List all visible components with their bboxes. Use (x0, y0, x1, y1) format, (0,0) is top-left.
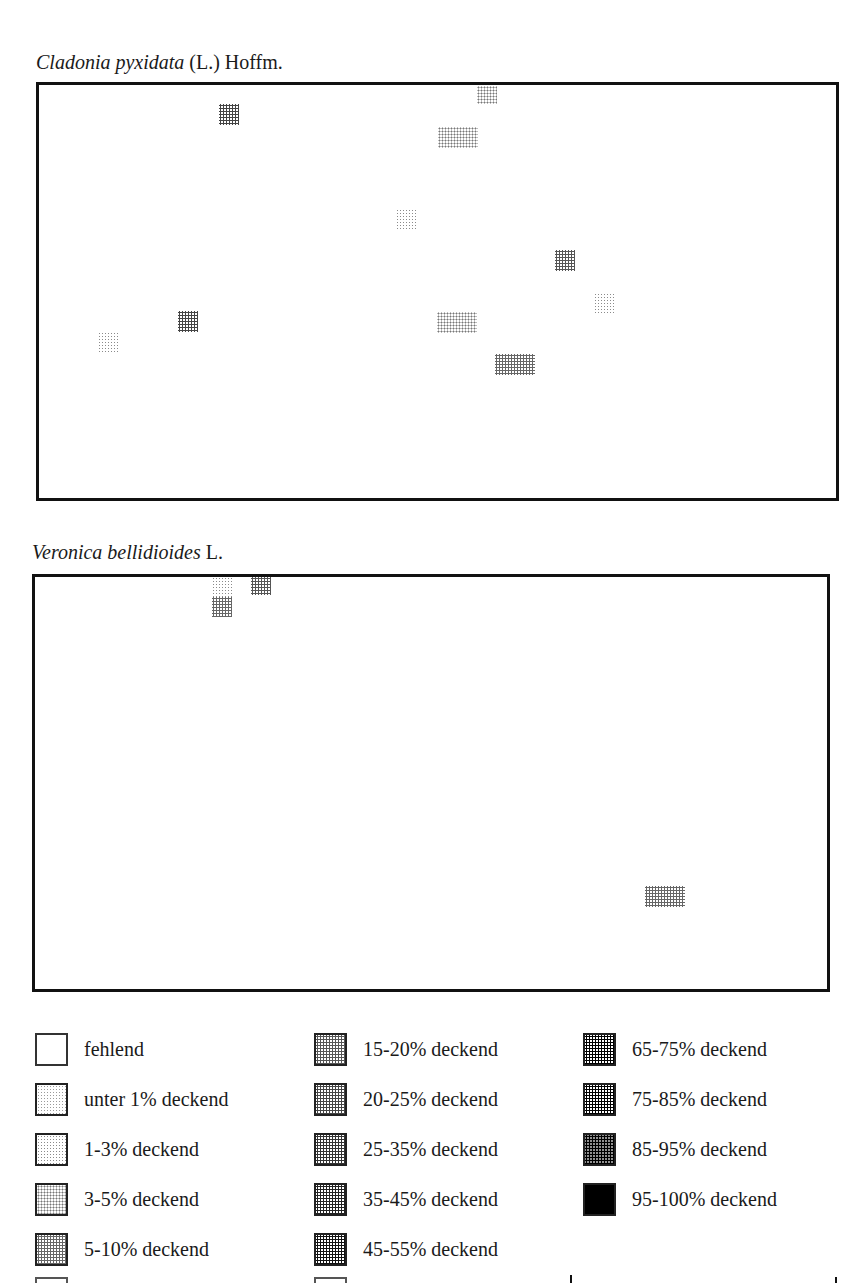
legend-label: 25-35% deckend (363, 1138, 498, 1161)
coverage-patch (396, 209, 416, 230)
coverage-patch (438, 127, 478, 148)
legend-item: 25-35% deckend (314, 1132, 498, 1166)
legend-swatch (314, 1233, 347, 1266)
legend-item: unter 1% deckend (35, 1082, 228, 1116)
legend-swatch-cut-off (314, 1277, 347, 1283)
coverage-patch (98, 332, 118, 353)
legend-swatch (583, 1033, 616, 1066)
legend-label: fehlend (84, 1038, 144, 1061)
legend-item: 65-75% deckend (583, 1032, 767, 1066)
legend-swatch (35, 1033, 68, 1066)
legend-swatch-cut-off (35, 1277, 68, 1283)
legend-label: 1-3% deckend (84, 1138, 199, 1161)
coverage-patch (212, 597, 232, 617)
coverage-patch (178, 311, 198, 332)
legend-label: 45-55% deckend (363, 1238, 498, 1261)
coverage-patch (555, 250, 575, 271)
legend-item: 75-85% deckend (583, 1082, 767, 1116)
legend-item: 5-10% deckend (35, 1232, 209, 1266)
legend-item: 20-25% deckend (314, 1082, 498, 1116)
legend-item: 95-100% deckend (583, 1182, 777, 1216)
species-authority: L. (201, 541, 223, 563)
legend-swatch (583, 1083, 616, 1116)
legend-swatch (35, 1083, 68, 1116)
legend-swatch (583, 1183, 616, 1216)
tick-mark (570, 1275, 572, 1283)
coverage-patch (437, 312, 477, 333)
tick-mark (835, 1277, 837, 1283)
legend-swatch (314, 1033, 347, 1066)
legend-item: 3-5% deckend (35, 1182, 199, 1216)
legend-label: 5-10% deckend (84, 1238, 209, 1261)
legend-swatch (35, 1233, 68, 1266)
legend-item: fehlend (35, 1032, 144, 1066)
coverage-patch (212, 577, 232, 597)
legend-item: 45-55% deckend (314, 1232, 498, 1266)
legend-label: unter 1% deckend (84, 1088, 228, 1111)
legend-swatch (314, 1183, 347, 1216)
legend-label: 3-5% deckend (84, 1188, 199, 1211)
legend-label: 20-25% deckend (363, 1088, 498, 1111)
legend-label: 75-85% deckend (632, 1088, 767, 1111)
legend-label: 95-100% deckend (632, 1188, 777, 1211)
legend-swatch (35, 1133, 68, 1166)
legend-swatch (35, 1183, 68, 1216)
coverage-patch (219, 104, 239, 125)
map-title: Veronica bellidioides L. (32, 540, 223, 564)
legend-swatch (314, 1083, 347, 1116)
coverage-patch (645, 886, 685, 907)
legend-item: 35-45% deckend (314, 1182, 498, 1216)
species-authority: (L.) Hoffm. (184, 51, 283, 73)
legend-swatch (583, 1133, 616, 1166)
species-name: Cladonia pyxidata (36, 51, 184, 73)
coverage-patch (594, 293, 614, 314)
legend-swatch (314, 1133, 347, 1166)
legend-item: 85-95% deckend (583, 1132, 767, 1166)
legend-label: 15-20% deckend (363, 1038, 498, 1061)
legend-label: 85-95% deckend (632, 1138, 767, 1161)
map-frame (32, 574, 830, 992)
map-title: Cladonia pyxidata (L.) Hoffm. (36, 50, 283, 74)
legend-label: 65-75% deckend (632, 1038, 767, 1061)
legend-item: 15-20% deckend (314, 1032, 498, 1066)
coverage-patch (251, 577, 271, 595)
coverage-patch (477, 86, 497, 104)
legend-label: 35-45% deckend (363, 1188, 498, 1211)
coverage-patch (495, 354, 535, 375)
species-name: Veronica bellidioides (32, 541, 201, 563)
legend-item: 1-3% deckend (35, 1132, 199, 1166)
